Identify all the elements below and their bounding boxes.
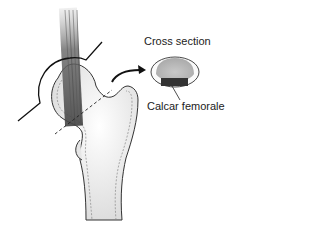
calcar-leader-line (172, 86, 180, 100)
calcar-femorale-region (161, 78, 188, 86)
cross-section-label: Cross section (144, 35, 211, 47)
cross-section (151, 57, 199, 87)
arrow-to-section (112, 70, 140, 82)
arrow-head-icon (138, 65, 146, 74)
calcar-femorale-label: Calcar femorale (147, 100, 225, 112)
